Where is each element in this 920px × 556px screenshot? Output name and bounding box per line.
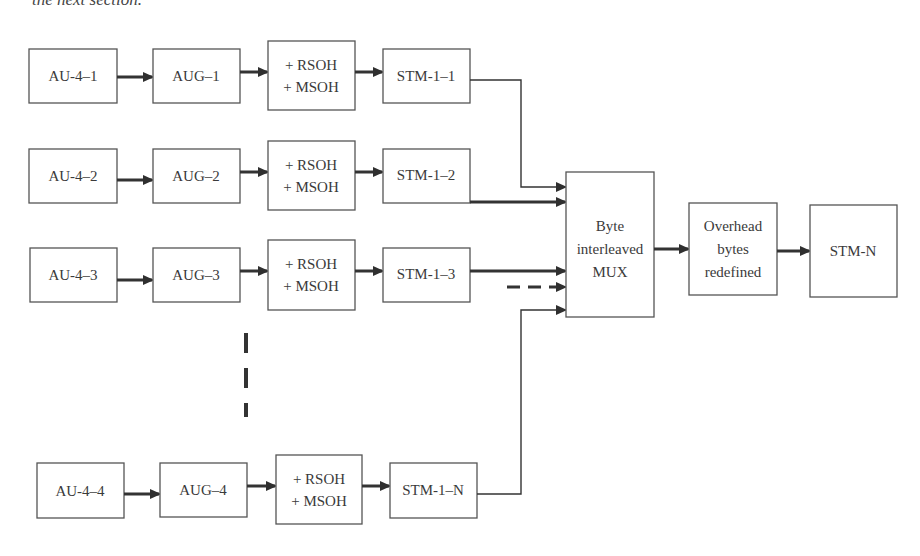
- aug-4-label: AUG–4: [179, 482, 227, 498]
- mux-label-line3: MUX: [592, 264, 627, 280]
- rsoh-2-label: + RSOH: [285, 157, 337, 173]
- msoh-1-label: + MSOH: [283, 79, 339, 95]
- rsoh-3-label: + RSOH: [285, 256, 337, 272]
- au-4-1-label: AU-4–1: [48, 68, 97, 84]
- rsoh-1-label: + RSOH: [285, 57, 337, 73]
- aug-1-label: AUG–1: [172, 68, 220, 84]
- byte-interleaved-mux: Byte interleaved MUX: [566, 172, 654, 317]
- mux-input-connectors: [470, 80, 565, 494]
- msoh-3-label: + MSOH: [283, 278, 339, 294]
- overhead-redefined: Overhead bytes redefined: [689, 203, 777, 295]
- connector-stm1-n-to-mux: [477, 310, 565, 494]
- overhead-4-box: [276, 455, 362, 524]
- stm-1-3-label: STM-1–3: [397, 266, 455, 282]
- stm-1-1-label: STM-1–1: [397, 68, 455, 84]
- overhead-3-box: [268, 240, 355, 310]
- overhead-2-box: [268, 141, 355, 210]
- overhead-label-line2: bytes: [717, 241, 749, 257]
- stm-1-n-label: STM-1–N: [402, 482, 464, 498]
- stm-1-2-label: STM-1–2: [397, 167, 455, 183]
- stm-n-output: STM-N: [810, 205, 897, 297]
- aug-2-label: AUG–2: [172, 168, 220, 184]
- au-4-2-label: AU-4–2: [48, 168, 97, 184]
- row-1: AU-4–1 AUG–1 + RSOH + MSOH STM-1–1: [29, 41, 470, 110]
- mux-label-line1: Byte: [596, 218, 625, 234]
- mux-label-line2: interleaved: [577, 241, 644, 257]
- rsoh-4-label: + RSOH: [293, 471, 345, 487]
- connector-stm1-1-to-mux: [470, 80, 565, 187]
- overhead-label-line1: Overhead: [704, 218, 763, 234]
- stm-n-multiplexing-diagram: AU-4–1 AUG–1 + RSOH + MSOH STM-1–1 AU-4–…: [0, 0, 920, 556]
- aug-3-label: AUG–3: [172, 267, 220, 283]
- stm-n-label: STM-N: [830, 243, 877, 259]
- row-2: AU-4–2 AUG–2 + RSOH + MSOH STM-1–2: [29, 141, 470, 210]
- row-4: AU-4–4 AUG–4 + RSOH + MSOH STM-1–N: [37, 455, 477, 524]
- row-3: AU-4–3 AUG–3 + RSOH + MSOH STM-1–3: [30, 240, 470, 310]
- overhead-label-line3: redefined: [705, 264, 762, 280]
- msoh-2-label: + MSOH: [283, 179, 339, 195]
- msoh-4-label: + MSOH: [291, 493, 347, 509]
- overhead-1-box: [268, 41, 355, 110]
- au-4-4-label: AU-4–4: [55, 483, 105, 499]
- au-4-3-label: AU-4–3: [48, 267, 97, 283]
